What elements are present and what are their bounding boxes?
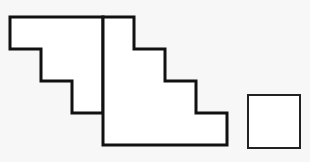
diagram-canvas (0, 0, 310, 162)
right-staircase-shape (103, 17, 227, 145)
small-square-shape (248, 95, 300, 148)
shapes-svg (0, 0, 310, 162)
left-staircase-shape (10, 17, 103, 113)
